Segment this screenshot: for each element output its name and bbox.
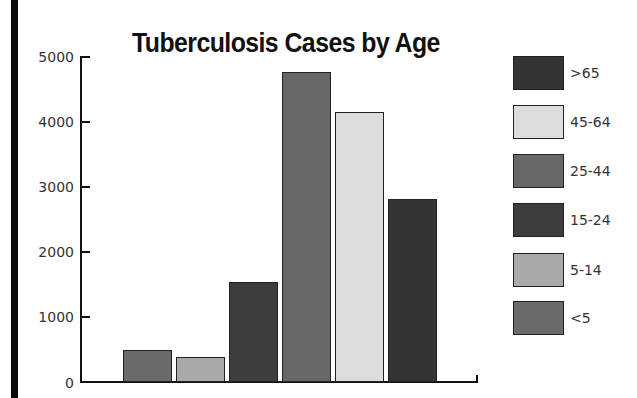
legend-label: 45-64 <box>570 114 611 130</box>
y-tick-2000 <box>82 251 90 253</box>
chart-title: Tuberculosis Cases by Age <box>132 28 440 59</box>
x-axis-end-tick <box>476 375 478 383</box>
bar-25-44 <box>282 72 331 382</box>
y-tick-label: 3000 <box>38 180 74 194</box>
legend-label: <5 <box>570 310 591 326</box>
legend-swatch <box>513 105 564 139</box>
y-tick-0 <box>82 381 90 383</box>
y-tick-label: 5000 <box>38 50 74 64</box>
y-tick-1000 <box>82 316 90 318</box>
y-tick-3000 <box>82 186 90 188</box>
legend-label: 15-24 <box>570 212 611 228</box>
y-tick-5000 <box>82 56 90 58</box>
y-tick-4000 <box>82 121 90 123</box>
legend-swatch <box>513 154 564 188</box>
legend-swatch <box>513 56 564 90</box>
legend-item-45-64: 45-64 <box>513 105 637 139</box>
bar-<5 <box>123 350 172 382</box>
legend-swatch <box>513 253 564 287</box>
legend-item-15-24: 15-24 <box>513 203 637 237</box>
legend-swatch <box>513 301 564 335</box>
legend-label: 25-44 <box>570 163 611 179</box>
bar-5-14 <box>176 357 225 382</box>
legend-item-5-14: 5-14 <box>513 253 637 287</box>
bar->65 <box>388 199 437 382</box>
y-tick-label: 2000 <box>38 245 74 259</box>
legend-label: >65 <box>570 65 600 81</box>
y-tick-label: 0 <box>65 376 74 390</box>
y-tick-label: 1000 <box>38 310 74 324</box>
y-tick-label: 4000 <box>38 115 74 129</box>
legend-item-25-44: 25-44 <box>513 154 637 188</box>
left-border-bar <box>11 0 18 398</box>
bar-15-24 <box>229 282 278 382</box>
legend-item-under-5: <5 <box>513 301 637 335</box>
legend-label: 5-14 <box>570 262 602 278</box>
legend-swatch <box>513 203 564 237</box>
y-axis <box>80 56 82 383</box>
bar-45-64 <box>335 112 384 382</box>
legend-item-over-65: >65 <box>513 56 637 90</box>
